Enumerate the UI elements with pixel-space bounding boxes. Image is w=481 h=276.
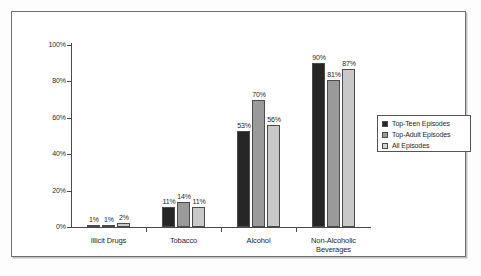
x-axis-tick: [296, 227, 297, 232]
y-axis-tick-label-text: 100%: [32, 41, 66, 49]
x-axis-tick: [221, 227, 222, 232]
legend-swatch-icon: [382, 121, 388, 127]
y-axis-tick: [67, 227, 72, 228]
legend-item-label: Top-Adult Episodes: [392, 131, 451, 139]
category-label-line: Beverages: [286, 245, 382, 254]
y-axis-tick: [67, 81, 72, 82]
bar[interactable]: [192, 207, 205, 227]
legend-item[interactable]: Top-Teen Episodes: [382, 119, 470, 129]
bar-group: 11%14%11%: [162, 45, 205, 227]
legend-item-label: Top-Teen Episodes: [392, 120, 450, 128]
y-axis-tick-label-text: 60%: [32, 114, 66, 122]
legend-item[interactable]: Top-Adult Episodes: [382, 130, 470, 140]
y-axis-line: [71, 43, 72, 228]
bar-group: 53%70%56%: [237, 45, 280, 227]
bar[interactable]: [162, 207, 175, 227]
category-label-line: Non-Alcoholic: [286, 236, 382, 245]
y-axis-tick: [67, 191, 72, 192]
bar[interactable]: [117, 223, 130, 227]
chart-legend[interactable]: Top-Teen EpisodesTop-Adult EpisodesAll E…: [377, 115, 471, 152]
bar-group: 1%1%2%: [87, 45, 130, 227]
bar[interactable]: [102, 225, 115, 227]
bar-value-label: 56%: [261, 116, 287, 124]
bar[interactable]: [327, 80, 340, 227]
y-axis-tick: [67, 45, 72, 46]
y-axis-tick-label: 100%: [26, 41, 66, 49]
bar-value-label: 2%: [111, 214, 137, 222]
category-label: Non-AlcoholicBeverages: [286, 236, 382, 254]
legend-item-label: All Episodes: [392, 142, 429, 150]
bar[interactable]: [237, 131, 250, 227]
y-axis-tick-label: 80%: [26, 77, 66, 85]
legend-swatch-icon: [382, 143, 388, 149]
legend-swatch-icon: [382, 132, 388, 138]
bar[interactable]: [312, 63, 325, 227]
bar-group: 90%81%87%: [312, 45, 355, 227]
x-axis-tick: [146, 227, 147, 232]
y-axis-tick-label-text: 20%: [32, 187, 66, 195]
y-axis-tick-label-text: 40%: [32, 150, 66, 158]
y-axis-tick-label: 0%: [26, 223, 66, 231]
bar-value-label: 11%: [186, 198, 212, 206]
y-axis-tick: [67, 118, 72, 119]
legend-item[interactable]: All Episodes: [382, 141, 470, 151]
chart-screenshot: 0%20%40%60%80%100% 1%1%2%11%14%11%53%70%…: [0, 0, 481, 276]
y-axis-tick-label: 40%: [26, 150, 66, 158]
bar-value-label: 87%: [336, 60, 362, 68]
y-axis-tick-label: 20%: [26, 187, 66, 195]
y-axis-tick-label-text: 0%: [32, 223, 66, 231]
bar[interactable]: [342, 69, 355, 227]
y-axis-tick: [67, 154, 72, 155]
bar-value-label: 90%: [306, 54, 332, 62]
figure-frame: 0%20%40%60%80%100% 1%1%2%11%14%11%53%70%…: [11, 11, 466, 257]
bar-value-label: 70%: [246, 91, 272, 99]
bar[interactable]: [267, 125, 280, 227]
bar[interactable]: [87, 225, 100, 227]
y-axis-tick-label-text: 80%: [32, 77, 66, 85]
y-axis-tick-label: 60%: [26, 114, 66, 122]
